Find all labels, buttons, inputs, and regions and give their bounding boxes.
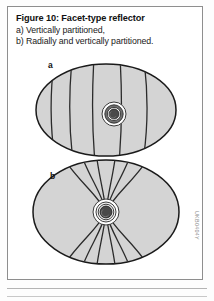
reflector-diagram-svg — [8, 7, 204, 281]
figure-reference-code: UKB0404Y — [194, 211, 200, 240]
panel-a-hub — [102, 102, 126, 126]
panel-b-group — [33, 152, 179, 272]
page-divider-rule — [7, 288, 207, 289]
panel-a-group — [36, 57, 176, 163]
panel-label-b: b — [50, 171, 55, 181]
panel-label-a: a — [48, 60, 53, 70]
figure-frame: Figure 10: Facet-type reflector a) Verti… — [7, 6, 203, 280]
panel-b-hub — [93, 199, 119, 225]
figure-page: Figure 10: Facet-type reflector a) Verti… — [0, 0, 214, 301]
page-divider-rule-secondary — [7, 296, 207, 297]
figure-drawing — [8, 7, 204, 281]
